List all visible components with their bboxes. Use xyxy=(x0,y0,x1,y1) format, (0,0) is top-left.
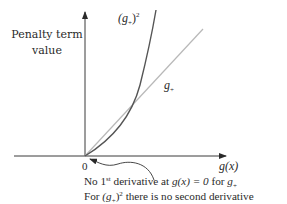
linear-curve-label: g+ xyxy=(164,78,174,94)
note2-pre: For xyxy=(84,190,102,202)
note1-expr: g(x) = 0 xyxy=(172,175,209,188)
linear-label-sub: + xyxy=(170,86,174,94)
penalty-diagram: Penalty term value (g+)2 g+ 0 g(x) No 1s… xyxy=(0,0,287,204)
y-axis-label-line2: value xyxy=(31,44,62,57)
squared-label-base: (g xyxy=(118,11,128,25)
note1-sub: + xyxy=(233,182,237,190)
note-line-2: For (g+)2 there is no second derivative xyxy=(84,190,254,204)
squared-penalty-curve xyxy=(85,10,156,156)
note1-mid: derivative at xyxy=(111,175,172,187)
origin-label: 0 xyxy=(82,160,88,172)
note-line-1: No 1st derivative at g(x) = 0 for g+ xyxy=(84,175,237,190)
note1-post: for xyxy=(209,175,228,187)
linear-penalty-line xyxy=(85,29,203,156)
squared-curve-label: (g+)2 xyxy=(118,11,140,27)
y-axis-label-line1: Penalty term xyxy=(11,28,83,41)
x-axis-label: g(x) xyxy=(219,159,238,173)
note1-pre: No 1 xyxy=(84,175,106,187)
note2-post: there is no second derivative xyxy=(123,190,254,202)
squared-label-sup: 2 xyxy=(136,11,140,19)
note2-expr: (g xyxy=(102,190,112,203)
